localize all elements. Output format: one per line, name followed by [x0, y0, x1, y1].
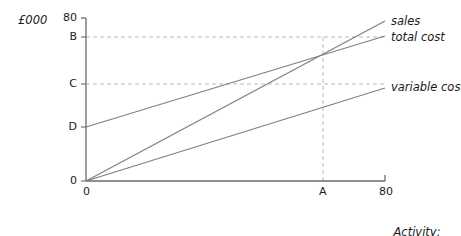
- y-tick-label-80: 80: [37, 12, 77, 24]
- series-line-sales: [86, 21, 385, 181]
- y-tick-label-d: D: [37, 121, 77, 133]
- x-axis-caption-line-1: Activity:: [374, 226, 460, 236]
- series-line-variable-cost: [86, 88, 385, 181]
- series-label-sales: sales: [391, 15, 420, 27]
- x-axis-caption: Activity: sales value, £000: [374, 200, 460, 236]
- x-tick-label-a: A: [319, 186, 327, 198]
- series-label-variable-cost: variable cost: [391, 81, 461, 93]
- y-tick-label-zero: 0: [37, 175, 77, 187]
- x-tick-label-zero: 0: [83, 186, 90, 198]
- series-line-total-cost: [86, 36, 385, 127]
- y-tick-label-c: C: [37, 78, 77, 90]
- y-tick-label-b: B: [37, 31, 77, 43]
- series-label-total-cost: total cost: [391, 31, 445, 43]
- x-tick-label-max: 80: [379, 186, 393, 198]
- breakeven-chart: £000 80 B C D 0 0 A 80 sales total cost …: [0, 0, 461, 236]
